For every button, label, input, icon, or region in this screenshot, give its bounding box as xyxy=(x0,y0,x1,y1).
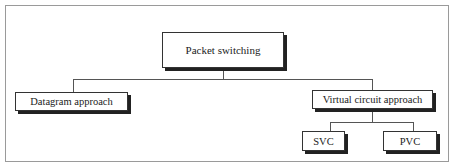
node-pvc: PVC xyxy=(383,131,437,151)
node-label: PVC xyxy=(400,136,420,147)
node-datagram-approach: Datagram approach xyxy=(15,92,128,111)
node-svc: SVC xyxy=(302,131,345,151)
connector-pvc-drop xyxy=(413,122,414,131)
node-packet-switching: Packet switching xyxy=(162,32,284,68)
connector-svc-drop xyxy=(330,122,331,131)
node-label: Datagram approach xyxy=(30,96,113,107)
connector-root-stem xyxy=(223,68,224,79)
connector-datagram-drop xyxy=(73,79,74,92)
node-label: Virtual circuit approach xyxy=(323,94,423,105)
connector-vc-drop xyxy=(372,79,373,90)
connector-vc-stem xyxy=(372,108,373,122)
node-virtual-circuit-approach: Virtual circuit approach xyxy=(312,90,433,109)
connector-level2-bar xyxy=(330,122,414,123)
node-label: SVC xyxy=(313,136,333,147)
node-label: Packet switching xyxy=(186,44,261,56)
connector-level1-bar xyxy=(73,79,373,80)
